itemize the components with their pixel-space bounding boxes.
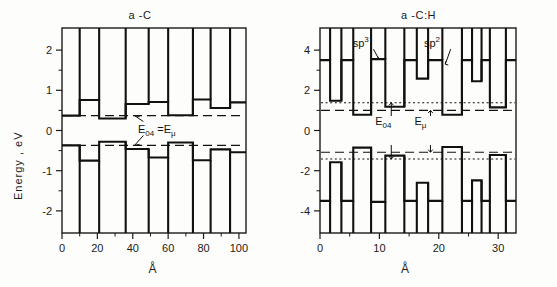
annotation-e04: E04 — [375, 115, 391, 130]
arrow-e04-up — [389, 103, 394, 116]
annotation-e04---emu: E04 =Eμ — [138, 123, 176, 138]
y-tick-label: -2 — [42, 205, 52, 217]
x-tick-label: 0 — [59, 242, 65, 254]
arrow-sp2 — [445, 49, 450, 65]
figure-container: a -C Energy , eV Å 020406080100210-1-2 E… — [0, 0, 557, 287]
valence-band-edge — [320, 147, 516, 202]
panel-a-c: a -C Energy , eV Å 020406080100210-1-2 E… — [0, 0, 280, 287]
valence-band-edge — [62, 142, 246, 161]
y-tick-label: 0 — [46, 125, 52, 137]
x-tick-label: 40 — [127, 242, 139, 254]
y-tick-label: 2 — [304, 84, 310, 96]
y-tick-label: 4 — [304, 44, 310, 56]
panel-a-c-h: a -C:H Å 0102030420-2-4 sp3sp2E04Eμ — [280, 0, 557, 287]
y-tick-label: -1 — [42, 165, 52, 177]
leader-e04-upper — [135, 116, 144, 122]
x-tick-label: 30 — [492, 242, 504, 254]
x-tick-label: 20 — [433, 242, 445, 254]
conduction-band-edge — [320, 59, 516, 115]
arrow-emu-up — [428, 110, 433, 116]
plot-a-c-h: 0102030420-2-4 — [280, 0, 557, 287]
y-tick-label: -4 — [300, 205, 310, 217]
x-tick-label: 60 — [162, 242, 174, 254]
plot-a-c: 020406080100210-1-2 — [0, 0, 280, 287]
annotation-sp3: sp3 — [353, 35, 369, 49]
x-tick-label: 10 — [373, 242, 385, 254]
x-tick-label: 80 — [197, 242, 209, 254]
y-tick-label: 0 — [304, 125, 310, 137]
annotation-sp2: sp2 — [424, 35, 440, 49]
x-tick-label: 100 — [230, 242, 248, 254]
arrow-emu-down — [428, 145, 433, 152]
annotation-emu: Eμ — [414, 115, 426, 130]
y-tick-label: 2 — [46, 44, 52, 56]
y-tick-label: -2 — [300, 165, 310, 177]
x-tick-label: 20 — [91, 242, 103, 254]
y-tick-label: 1 — [46, 84, 52, 96]
x-tick-label: 0 — [317, 242, 323, 254]
